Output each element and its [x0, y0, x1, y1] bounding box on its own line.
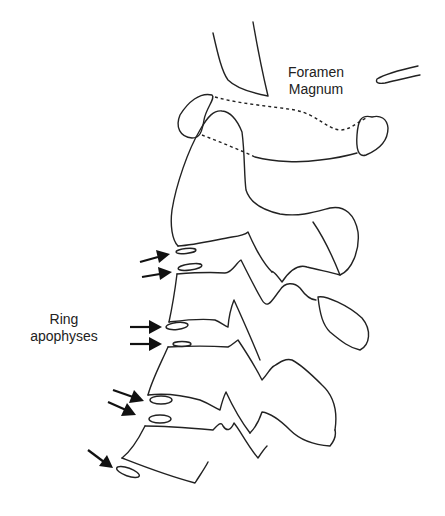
c3-outline	[177, 260, 316, 304]
ring-apophyses-label-line2: apophyses	[24, 328, 104, 345]
arrow-icon	[140, 250, 170, 263]
c3-inferior-endplate	[169, 300, 260, 360]
arrow-icon	[108, 402, 136, 416]
atlas-anterior-arch	[178, 94, 213, 138]
cervical-spine-diagram	[0, 0, 445, 516]
c5-body-front	[122, 426, 145, 458]
foramen-magnum-dashed-upper	[215, 97, 366, 130]
c2-arch-line	[255, 153, 357, 162]
c5-superior-endplate	[145, 423, 267, 458]
c2-spinous-process	[272, 222, 340, 282]
arrow-icon	[130, 337, 162, 351]
foramen-magnum-dashed-lower	[202, 135, 255, 157]
ring-apophysis-7	[115, 464, 140, 480]
ring-apophysis-1	[176, 247, 196, 254]
atlas-posterior-arch	[357, 116, 388, 155]
c4-body-front	[148, 347, 168, 395]
ring-apophyses-label-line1: Ring	[24, 311, 104, 328]
ring-apophysis-3	[166, 321, 189, 330]
arrow-icon	[113, 390, 144, 403]
arrow-icon	[88, 450, 113, 468]
arrow-icon	[130, 320, 162, 334]
c4-lamina	[250, 412, 335, 446]
foramen-magnum-label: Foramen Magnum	[280, 64, 352, 98]
occiput-right-fragment	[376, 66, 420, 83]
c3-articular-pillar	[318, 297, 369, 350]
ring-apophysis-5	[150, 396, 172, 404]
c4-outline	[168, 340, 336, 430]
ring-apophysis-6	[149, 415, 171, 423]
arrow-icon	[142, 267, 172, 280]
ring-apophysis-2	[178, 262, 203, 271]
foramen-magnum-label-line2: Magnum	[280, 81, 352, 98]
foramen-magnum-label-line1: Foramen	[280, 64, 352, 81]
occiput-outline	[213, 22, 268, 96]
c3-body-front	[169, 274, 177, 322]
ring-apophyses-label: Ring apophyses	[24, 311, 104, 345]
